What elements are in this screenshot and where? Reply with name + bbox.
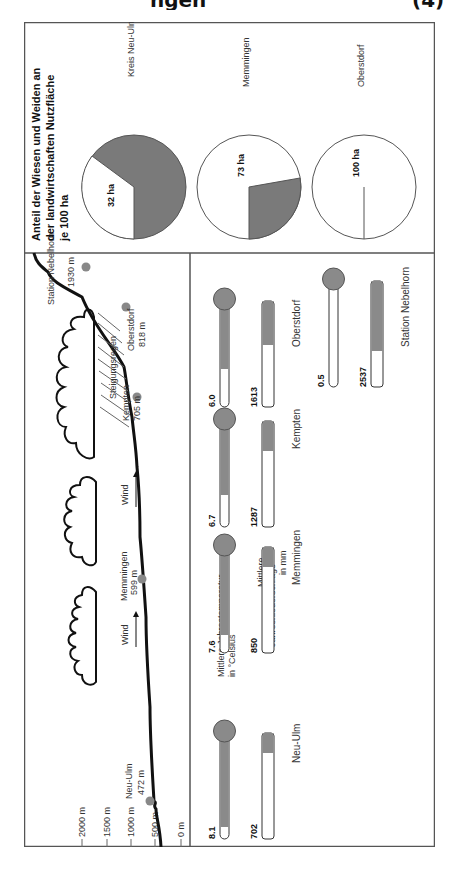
pie-heading-line2: der landwirtschaften Nutzfläche	[44, 75, 56, 241]
pie-value: 100 ha	[351, 148, 361, 177]
pie-value: 32 ha	[106, 183, 116, 207]
gauge-nebelhorn: 0.5 2537 Station Nebelhorn	[316, 267, 411, 387]
station-elevation: 472 m	[136, 770, 146, 795]
wind-arrow-2: Wind	[120, 471, 139, 507]
pie-panel: Anteil der Wiesen und Weiden an der land…	[30, 22, 416, 242]
precip-value: 1287	[249, 507, 259, 527]
wind-label: Wind	[120, 484, 130, 505]
pie-memmingen: 73 ha Memmingen	[197, 37, 301, 239]
station-elevation: 599 m	[129, 570, 139, 595]
temp-value: 7.6	[207, 640, 217, 653]
page-title: ngen (4)	[0, 0, 456, 10]
pie-label: Kreis Neu-Ulm	[126, 22, 136, 77]
station-marker-neu-ulm	[146, 797, 155, 806]
legend-precip-unit: in mm	[278, 551, 288, 576]
temp-value: 8.1	[207, 826, 217, 839]
station-name: Station Nebelhorn	[46, 233, 56, 305]
cloud-icon	[69, 587, 97, 685]
station-name: Memmingen	[119, 551, 129, 601]
station-label: Kempten	[291, 409, 302, 449]
altitude-scale: 2000 m 1500 m 1000 m 500 m 0 m	[77, 807, 186, 847]
title-fragment: ngen	[150, 0, 206, 10]
station-elevation: 705 m	[132, 396, 142, 421]
cloud-icon	[64, 477, 96, 565]
station-label: Oberstdorf	[291, 300, 302, 347]
station-label: Station Nebelhorn	[400, 267, 411, 347]
precip-value: 702	[249, 824, 259, 839]
gauge-panel: Mittlere Jahrestemperatur in °Celsius Mi…	[207, 267, 411, 839]
wind-arrow-1: Wind	[120, 611, 139, 647]
elevation-profile: 2000 m 1500 m 1000 m 500 m 0 m Neu-Ulm 4…	[34, 233, 186, 847]
gauge-neu-ulm: 8.1 702 Neu-Ulm	[207, 720, 302, 839]
station-label: Memmingen	[291, 530, 302, 585]
scale-label: 1500 m	[102, 807, 112, 837]
temp-value: 6.0	[207, 394, 217, 407]
pie-label: Oberstdorf	[356, 44, 366, 87]
station-name: Neu-Ulm	[124, 763, 134, 799]
gauge-kempten: 6.7 1287 Kempten	[207, 408, 302, 527]
station-elevation: 1930 m	[66, 257, 76, 287]
title-number: (4)	[412, 0, 444, 10]
station-label: Neu-Ulm	[291, 724, 302, 763]
pie-oberstdorf: 100 ha Oberstdorf	[312, 44, 416, 239]
temp-value: 0.5	[316, 374, 326, 387]
scale-label: 1000 m	[126, 807, 136, 837]
temp-value: 6.7	[207, 514, 217, 527]
pie-heading-line3: je 100 ha	[58, 194, 70, 242]
rain-label: Steigungsregen	[108, 336, 118, 399]
precip-value: 2537	[358, 367, 368, 387]
station-marker-nebelhorn	[82, 263, 91, 272]
wind-label: Wind	[120, 624, 130, 645]
pie-value: 73 ha	[236, 153, 246, 177]
station-elevation: 818 m	[137, 322, 147, 347]
station-name: Oberstdorf	[126, 308, 136, 351]
precip-value: 850	[249, 638, 259, 653]
gauge-memmingen: 7.6 850 Memmingen	[207, 530, 302, 653]
pie-kreis-neu-ulm: 32 ha Kreis Neu-Ulm	[82, 22, 186, 239]
diagram: 2000 m 1500 m 1000 m 500 m 0 m Neu-Ulm 4…	[24, 22, 435, 847]
scale-label: 0 m	[176, 822, 186, 837]
cloud-icon	[57, 310, 95, 459]
scale-label: 2000 m	[77, 807, 87, 837]
precip-value: 1613	[249, 387, 259, 407]
gauge-oberstdorf: 6.0 1613 Oberstdorf	[207, 288, 302, 407]
pie-label: Memmingen	[241, 37, 251, 87]
pie-heading-line1: Anteil der Wiesen und Weiden an	[30, 67, 42, 241]
